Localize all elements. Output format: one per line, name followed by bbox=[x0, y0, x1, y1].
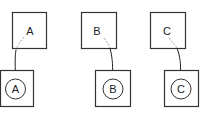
target-label-a: A bbox=[12, 83, 20, 95]
target-label-b: B bbox=[109, 83, 116, 95]
pair-b: B B bbox=[82, 13, 131, 107]
mapping-diagram: A A B B C C bbox=[0, 0, 200, 114]
source-label-a: A bbox=[26, 25, 34, 37]
source-label-c: C bbox=[163, 25, 171, 37]
target-label-c: C bbox=[177, 83, 185, 95]
pair-c: C C bbox=[151, 13, 199, 107]
source-label-b: B bbox=[93, 25, 100, 37]
pair-a: A A bbox=[1, 13, 47, 107]
